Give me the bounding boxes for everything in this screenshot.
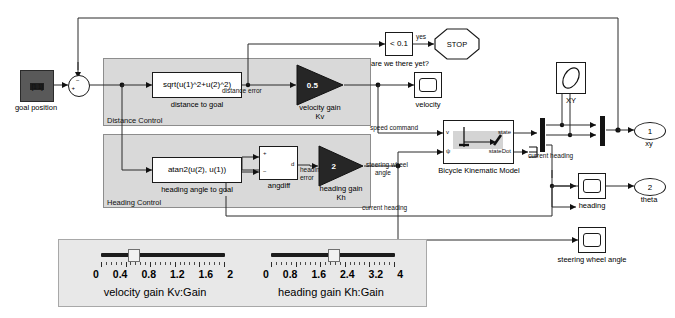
goal-position-value: [1 1] <box>30 83 43 90</box>
compare-to-constant-block[interactable]: < 0.1 <box>385 32 413 56</box>
velocity-gain-value: 0.5 <box>298 81 327 90</box>
xy-scope-block[interactable] <box>556 62 586 94</box>
tick-label: 3.2 <box>369 268 384 280</box>
speed-command-signal-label: speed command <box>370 125 418 132</box>
velocity-gain-slider-ticks <box>101 262 225 267</box>
plant-output-statedot-label: stateDot <box>489 148 511 154</box>
tick-label: 0.8 <box>283 268 298 280</box>
plant-input-psi-label: ψ <box>446 148 450 154</box>
tick-label: 1.6 <box>199 268 214 280</box>
scope-screen-icon <box>583 179 601 193</box>
velocity-gain-slider-label: velocity gain Kv:Gain <box>71 286 239 298</box>
angdiff-minus-label: − <box>263 168 267 174</box>
distance-error-signal-label: distance error <box>222 88 262 95</box>
mux-block[interactable] <box>600 116 605 146</box>
velocity-gain-slider-tick-labels: 0 0.4 0.8 1.2 1.6 2 <box>93 268 233 280</box>
outport-theta-block[interactable]: 2 <box>634 178 666 196</box>
current-heading-signal-label-1: current heading <box>528 153 573 160</box>
tick-label: 0.4 <box>113 268 128 280</box>
sum-minus-sign: − <box>76 77 80 83</box>
steering-wheel-angle-scope-block[interactable] <box>578 227 606 253</box>
heading-gain-slider-label: heading gain Kh:Gain <box>247 286 415 298</box>
heading-gain-slider-tick-labels: 0 0.8 1.6 2.4 3.2 4 <box>263 268 403 280</box>
heading-gain-block[interactable]: 2 <box>318 145 364 187</box>
tick-label: 0 <box>263 268 269 280</box>
gain-slider-panel: 0 0.4 0.8 1.2 1.6 2 velocity gain Kv:Gai… <box>58 239 427 307</box>
outport-xy-block[interactable]: 1 <box>634 122 666 140</box>
outport-xy-caption: xy <box>634 140 664 148</box>
heading-angle-to-goal-caption: heading angle to goal <box>146 186 248 194</box>
tick-label: 4 <box>397 268 403 280</box>
compare-to-constant-text: < 0.1 <box>388 40 410 48</box>
plant-input-v-label: v <box>446 129 449 135</box>
scope-screen-icon <box>583 233 601 247</box>
outport-xy-number: 1 <box>648 127 652 136</box>
velocity-gain-caption-line2: Kv <box>285 113 355 121</box>
tick-label: 0.8 <box>141 268 156 280</box>
scope-screen-icon <box>419 78 437 92</box>
subsystem-heading-control-label: Heading Control <box>107 198 161 207</box>
velocity-gain-slider-thumb[interactable] <box>128 249 140 262</box>
stop-label: STOP <box>434 40 480 49</box>
tick-label: 2.4 <box>340 268 355 280</box>
heading-gain-slider-ticks <box>271 262 395 267</box>
sum-block[interactable]: − + <box>68 75 90 97</box>
heading-gain-value: 2 <box>320 162 348 171</box>
heading-gain-slider-thumb[interactable] <box>328 249 340 262</box>
simulink-diagram-canvas: Distance Control Heading Control <box>0 0 675 318</box>
bicycle-kinematic-model-caption: Bicycle Kinematic Model <box>432 167 526 175</box>
sum-plus-sign: + <box>72 85 76 91</box>
steering-wheel-angle-scope-caption: steering wheel angle <box>552 256 632 264</box>
tick-label: 1.2 <box>170 268 185 280</box>
velocity-gain-block[interactable]: 0.5 <box>296 64 344 106</box>
tick-label: 0 <box>93 268 99 280</box>
demux-block[interactable] <box>540 118 545 152</box>
heading-scope-block[interactable] <box>578 173 606 199</box>
tick-label: 1.6 <box>311 268 326 280</box>
heading-gain-caption-line2: Kh <box>306 194 376 202</box>
goal-position-constant-block[interactable]: [1 1] <box>20 70 54 102</box>
distance-to-goal-caption: distance to goal <box>152 101 242 109</box>
velocity-gain-caption-line1: velocity gain <box>285 104 355 112</box>
heading-gain-slider-cell: 0 0.8 1.6 2.4 3.2 4 heading gain Kh:Gain <box>247 246 415 304</box>
outport-theta-number: 2 <box>648 183 652 192</box>
yes-signal-label: yes <box>416 34 426 41</box>
plant-output-state-label: state <box>498 129 511 135</box>
current-heading-signal-label-2: current heading <box>362 205 407 212</box>
steering-wheel-angle-signal-line1: steering wheel <box>366 162 408 169</box>
angdiff-plus-label: + <box>263 150 267 156</box>
xy-scope-caption: XY <box>553 97 589 105</box>
angdiff-block[interactable]: + − d <box>259 146 298 180</box>
velocity-scope-caption: velocity <box>410 101 446 109</box>
subsystem-distance-control-label: Distance Control <box>107 116 162 125</box>
angdiff-caption: angdiff <box>254 182 304 190</box>
are-we-there-yet-caption: are we there yet? <box>369 60 431 68</box>
heading-gain-caption-line1: heading gain <box>306 185 376 193</box>
steering-wheel-angle-signal-line2: angle <box>375 170 391 177</box>
heading-error-signal-label-line2: error <box>300 175 314 182</box>
velocity-gain-slider-cell: 0 0.4 0.8 1.2 1.6 2 velocity gain Kv:Gai… <box>71 246 239 304</box>
outport-theta-caption: theta <box>630 196 668 204</box>
stop-simulation-block[interactable]: STOP <box>434 28 480 60</box>
heading-angle-fcn-text: atan2(u(2), u(1)) <box>166 166 228 174</box>
angdiff-output-label: d <box>291 161 294 167</box>
velocity-gain-slider-track[interactable] <box>101 253 225 257</box>
velocity-scope-block[interactable] <box>414 72 442 98</box>
heading-scope-caption: heading <box>570 202 614 210</box>
goal-position-caption: goal position <box>6 104 66 112</box>
tick-label: 2 <box>227 268 233 280</box>
bicycle-kinematic-model-block[interactable]: v ψ state stateDot <box>443 120 514 164</box>
heading-angle-to-goal-fcn-block[interactable]: atan2(u(2), u(1)) <box>152 157 242 183</box>
